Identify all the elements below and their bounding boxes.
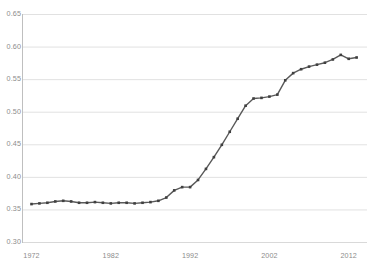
data-point-marker bbox=[355, 56, 358, 59]
data-point-marker bbox=[292, 72, 295, 75]
data-point-marker bbox=[149, 201, 152, 204]
data-point-marker bbox=[308, 65, 311, 68]
data-point-marker bbox=[205, 168, 208, 171]
line-chart-plot bbox=[0, 0, 371, 275]
data-point-marker bbox=[228, 130, 231, 133]
data-point-marker bbox=[316, 63, 319, 66]
data-point-marker bbox=[189, 186, 192, 189]
data-point-marker bbox=[339, 54, 342, 57]
data-point-marker bbox=[70, 200, 73, 203]
data-point-marker bbox=[244, 104, 247, 107]
data-point-marker bbox=[213, 156, 216, 159]
data-point-marker bbox=[30, 203, 33, 206]
data-point-marker bbox=[284, 79, 287, 82]
data-point-marker bbox=[260, 97, 263, 100]
data-point-marker bbox=[78, 201, 81, 204]
data-point-marker bbox=[54, 200, 57, 203]
data-point-marker bbox=[133, 202, 136, 205]
chart-container: 0.650.600.550.500.450.400.350.30 1972198… bbox=[0, 0, 371, 275]
data-point-marker bbox=[165, 196, 168, 199]
data-point-marker bbox=[125, 201, 128, 204]
data-point-marker bbox=[38, 202, 41, 205]
data-point-marker bbox=[268, 95, 271, 98]
data-point-marker bbox=[157, 200, 160, 203]
data-point-marker bbox=[252, 97, 255, 100]
data-point-marker bbox=[347, 58, 350, 61]
data-point-marker bbox=[173, 189, 176, 192]
data-point-marker bbox=[236, 117, 239, 120]
data-series-line bbox=[32, 55, 357, 204]
data-point-marker bbox=[117, 201, 120, 204]
data-point-marker bbox=[62, 200, 65, 203]
data-point-marker bbox=[102, 201, 105, 204]
data-point-marker bbox=[86, 201, 89, 204]
data-point-marker bbox=[332, 58, 335, 61]
data-point-marker bbox=[276, 93, 279, 96]
data-point-marker bbox=[94, 201, 97, 204]
data-point-marker bbox=[46, 201, 49, 204]
data-point-marker bbox=[324, 61, 327, 64]
data-point-marker bbox=[181, 186, 184, 189]
data-point-marker bbox=[221, 143, 224, 146]
data-point-marker bbox=[110, 202, 113, 205]
data-point-marker bbox=[197, 179, 200, 182]
data-point-marker bbox=[300, 68, 303, 71]
data-point-marker bbox=[141, 201, 144, 204]
gridlines-group bbox=[23, 15, 367, 243]
